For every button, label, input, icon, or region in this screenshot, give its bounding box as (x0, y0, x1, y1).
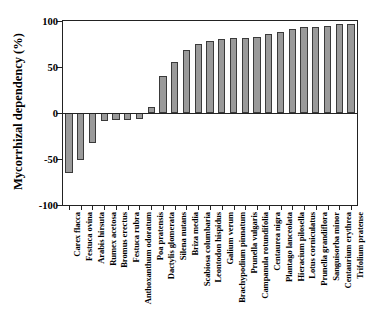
y-axis-tick-label: 50 (48, 62, 59, 73)
x-axis-tick (245, 205, 246, 210)
x-axis-tick (292, 205, 293, 210)
x-axis-tick (257, 205, 258, 210)
bar (171, 62, 178, 113)
x-axis-tick (128, 205, 129, 210)
x-axis-tick (163, 205, 164, 210)
x-axis-tick (186, 205, 187, 210)
bar (65, 113, 72, 173)
x-axis-tick-label: Briza media (190, 212, 200, 256)
x-axis-tick (351, 205, 352, 210)
x-axis-tick-label: Prunella grandiflora (319, 212, 329, 286)
plot-area: 100500-50-100Carex flaccaFestuca ovinaAr… (62, 20, 358, 206)
bar (312, 27, 319, 113)
x-axis-tick-label: Anthoxanthum odoratum (143, 212, 153, 304)
x-axis-tick-label: Carex flacca (72, 212, 82, 257)
x-axis-tick (175, 205, 176, 210)
x-axis-tick-label: Poa pratensis (155, 212, 165, 260)
bar (324, 26, 331, 113)
x-axis-tick-label: Campanula rotundifolia (260, 212, 270, 299)
bar (218, 39, 225, 113)
bar (183, 50, 190, 113)
bar (300, 27, 307, 113)
bar (206, 41, 213, 113)
x-axis-tick (304, 205, 305, 210)
bar (230, 38, 237, 113)
x-axis-tick (116, 205, 117, 210)
bar (265, 34, 272, 113)
x-axis-tick (210, 205, 211, 210)
x-axis-tick-label: Centaurium erythrea (343, 212, 353, 288)
bar (277, 32, 284, 113)
x-axis-tick-label: Plantago lanceolata (284, 212, 294, 282)
x-axis-tick-label: Leontodon hispidus (213, 212, 223, 283)
x-axis-tick (222, 205, 223, 210)
x-axis-tick (234, 205, 235, 210)
x-axis-tick-label: Rumex acetosa (108, 212, 118, 266)
y-axis-tick-label: -50 (44, 154, 58, 165)
x-axis-tick (198, 205, 199, 210)
bar (112, 113, 119, 120)
x-axis-tick (328, 205, 329, 210)
chart-figure: Mycorrhizal dependency (%) 100500-50-100… (0, 0, 367, 336)
x-axis-tick (269, 205, 270, 210)
x-axis-tick (92, 205, 93, 210)
x-axis-tick-label: Sanguisorba minor (331, 212, 341, 281)
x-axis-tick-label: Prunella vulgaris (249, 212, 259, 274)
x-axis-tick (316, 205, 317, 210)
zero-baseline (63, 113, 357, 114)
x-axis-tick-label: Arabis hirsuta (96, 212, 106, 264)
bar (289, 29, 296, 113)
x-axis-tick-label: Festuca rubra (131, 212, 141, 263)
x-axis-tick (151, 205, 152, 210)
bar (124, 113, 131, 120)
x-axis-tick (281, 205, 282, 210)
x-axis-tick (81, 205, 82, 210)
bar (89, 113, 96, 143)
x-axis-tick-label: Silena nutans (178, 212, 188, 260)
x-axis-tick-label: Scabiosa columbaria (202, 212, 212, 286)
bar (336, 24, 343, 113)
x-axis-tick-label: Brachypodium pinnatum (237, 212, 247, 303)
bar (77, 113, 84, 160)
bar (347, 24, 354, 113)
x-axis-tick-label: Galium verum (225, 212, 235, 265)
y-axis-tick-label: 0 (53, 108, 58, 119)
y-axis-tick-label: -100 (39, 200, 58, 211)
x-axis-tick (139, 205, 140, 210)
bar (242, 38, 249, 113)
x-axis-tick (69, 205, 70, 210)
x-axis-tick-label: Dactylis glomerata (166, 212, 176, 279)
x-axis-tick-label: Lotus corniculatus (307, 212, 317, 279)
x-axis-tick-label: Bromus erectus (119, 212, 129, 268)
x-axis-tick-label: Festuca ovina (84, 212, 94, 261)
x-axis-tick-label: Hieracium pilosella (296, 212, 306, 281)
y-axis-title: Mycorrhizal dependency (%) (11, 12, 26, 212)
x-axis-tick (104, 205, 105, 210)
bar (195, 44, 202, 113)
bar (101, 113, 108, 121)
bar (159, 76, 166, 113)
x-axis-tick-label: Trifolium pratense (355, 212, 365, 279)
y-axis-tick-label: 100 (42, 16, 58, 27)
x-axis-tick-label: Centaurea nigra (272, 212, 282, 271)
bar (253, 37, 260, 113)
x-axis-tick (339, 205, 340, 210)
